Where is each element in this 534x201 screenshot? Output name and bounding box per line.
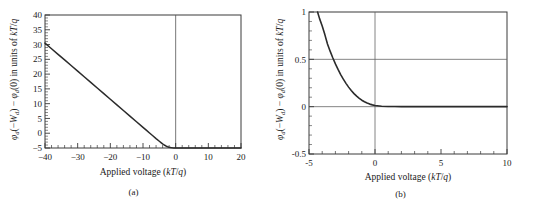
svg-text:5: 5 bbox=[439, 158, 444, 168]
svg-text:0.5: 0.5 bbox=[295, 55, 307, 65]
svg-text:30: 30 bbox=[33, 40, 43, 50]
panel-a-curve bbox=[45, 43, 241, 148]
svg-text:Applied voltage (kT/q): Applied voltage (kT/q) bbox=[100, 167, 187, 178]
svg-text:−20: −20 bbox=[103, 152, 118, 162]
panel-a-plot: φd(−Wd) − φd(0) in units of kT/q bbox=[0, 0, 267, 201]
svg-text:-5: -5 bbox=[305, 158, 313, 168]
svg-text:−5: −5 bbox=[32, 143, 42, 153]
panel-b-xticks-major bbox=[309, 149, 507, 154]
svg-text:20: 20 bbox=[33, 69, 43, 79]
svg-text:10: 10 bbox=[503, 158, 513, 168]
panel-b-plot: φd(−Wd) − φd(0) in units of kT/q bbox=[267, 0, 534, 201]
panel-a-xlabel: Applied voltage (kT/q) bbox=[100, 167, 187, 178]
svg-text:−10: −10 bbox=[136, 152, 151, 162]
svg-text:−40: −40 bbox=[38, 152, 53, 162]
svg-text:0: 0 bbox=[373, 158, 378, 168]
figure-container: φd(−Wd) − φd(0) in units of kT/q bbox=[0, 0, 534, 201]
panel-a-ylabel: φd(−Wd) − φd(0) in units of kT/q bbox=[9, 18, 20, 140]
svg-text:10: 10 bbox=[204, 152, 214, 162]
panel-a: φd(−Wd) − φd(0) in units of kT/q bbox=[0, 0, 267, 201]
svg-text:φd(−Wd) − φd(0) in units of kT: φd(−Wd) − φd(0) in units of kT/q bbox=[9, 18, 20, 140]
svg-text:−30: −30 bbox=[71, 152, 86, 162]
svg-text:10: 10 bbox=[33, 99, 43, 109]
svg-text:40: 40 bbox=[33, 10, 43, 20]
svg-text:35: 35 bbox=[33, 25, 43, 35]
svg-text:15: 15 bbox=[33, 84, 43, 94]
panel-b: φd(−Wd) − φd(0) in units of kT/q bbox=[267, 0, 534, 201]
svg-text:φd(−Wd) − φd(0) in units of kT: φd(−Wd) − φd(0) in units of kT/q bbox=[275, 18, 286, 140]
panel-b-ylabel: φd(−Wd) − φd(0) in units of kT/q bbox=[275, 18, 286, 140]
panel-a-yticks-major bbox=[45, 15, 50, 148]
svg-text:0: 0 bbox=[38, 128, 43, 138]
panel-b-xticklabels: -5 0 5 10 bbox=[305, 158, 512, 168]
svg-text:Applied voltage (kT/q): Applied voltage (kT/q) bbox=[365, 172, 452, 183]
svg-text:5: 5 bbox=[38, 114, 43, 124]
panel-b-caption: (b) bbox=[267, 189, 534, 199]
svg-text:20: 20 bbox=[237, 152, 247, 162]
panel-a-xticklabels: −40 −30 −20 −10 0 10 20 bbox=[38, 152, 246, 162]
svg-text:0: 0 bbox=[302, 102, 307, 112]
panel-a-yticklabels: −5 0 5 10 15 20 25 30 35 40 bbox=[32, 10, 42, 153]
panel-a-caption: (a) bbox=[0, 187, 267, 197]
svg-text:0: 0 bbox=[173, 152, 178, 162]
svg-text:-0.5: -0.5 bbox=[292, 149, 307, 159]
panel-b-yticklabels: -0.5 0 0.5 1 bbox=[292, 7, 307, 159]
panel-b-frame bbox=[309, 12, 507, 154]
svg-text:25: 25 bbox=[33, 54, 43, 64]
panel-b-xlabel: Applied voltage (kT/q) bbox=[365, 172, 452, 183]
svg-text:1: 1 bbox=[302, 7, 307, 17]
panel-b-yticks-major bbox=[309, 12, 314, 154]
